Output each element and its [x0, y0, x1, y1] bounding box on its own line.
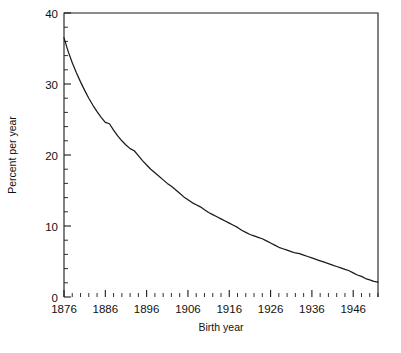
plot-frame: [64, 13, 378, 297]
x-tick-label: 1906: [175, 303, 201, 315]
x-tick-label: 1876: [51, 303, 77, 315]
y-tick-label: 0: [52, 292, 58, 304]
y-axis-tick-labels: 010203040: [45, 8, 58, 304]
x-tick-label: 1896: [134, 303, 160, 315]
x-tick-label: 1946: [340, 303, 366, 315]
y-axis-title: Percent per year: [6, 116, 18, 194]
data-series-group: [64, 38, 378, 282]
x-tick-label: 1936: [299, 303, 325, 315]
y-tick-label: 30: [45, 79, 58, 91]
chart-canvas: 010203040 187618861896190619161926193619…: [0, 0, 401, 353]
y-tick-label: 40: [45, 8, 58, 20]
x-tick-label: 1916: [216, 303, 242, 315]
y-tick-label: 20: [45, 150, 58, 162]
x-axis-ticks: [64, 290, 378, 297]
chart-figure: 010203040 187618861896190619161926193619…: [0, 0, 401, 353]
x-axis-tick-labels: 18761886189619061916192619361946: [51, 303, 366, 315]
y-tick-label: 10: [45, 221, 58, 233]
x-tick-label: 1926: [258, 303, 284, 315]
x-axis-title: Birth year: [199, 321, 244, 333]
series-line-percent-per-year: [64, 38, 378, 282]
x-tick-label: 1886: [93, 303, 119, 315]
